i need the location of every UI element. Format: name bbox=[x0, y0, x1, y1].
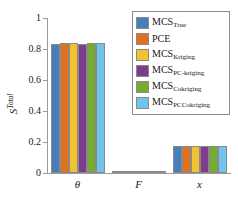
legend-label: PCE bbox=[152, 34, 170, 44]
legend-rows: MCSTruePCEMCSKrigingMCSPC-krigingMCSCokr… bbox=[136, 15, 226, 111]
bar bbox=[87, 43, 96, 173]
x-tick-label: x bbox=[197, 178, 202, 190]
x-tick-label: θ bbox=[75, 178, 80, 190]
legend-label: MCSCokriging bbox=[152, 81, 202, 93]
legend-label-base: PCE bbox=[152, 33, 170, 44]
legend-label-base: MCS bbox=[152, 64, 173, 75]
bar bbox=[130, 171, 139, 173]
legend-color-swatch bbox=[136, 65, 149, 77]
bar bbox=[139, 171, 148, 173]
bar bbox=[218, 146, 227, 173]
legend-label-subscript: PCCokriging bbox=[173, 101, 210, 109]
y-tick-label: 0 bbox=[36, 168, 41, 178]
legend-label: MCSPC-kriging bbox=[152, 65, 204, 77]
bar bbox=[182, 146, 191, 173]
legend-label-base: MCS bbox=[152, 80, 173, 91]
legend-color-swatch bbox=[136, 33, 149, 45]
x-axis-line bbox=[47, 173, 231, 174]
y-axis-label-superscript: Total bbox=[6, 93, 15, 108]
bar bbox=[51, 44, 60, 173]
bar bbox=[209, 146, 218, 173]
legend-color-swatch bbox=[136, 49, 149, 61]
legend-item: MCSPCCokriging bbox=[136, 95, 226, 111]
legend-label-subscript: Kriging bbox=[173, 53, 195, 61]
legend-label-base: MCS bbox=[152, 48, 173, 59]
bar bbox=[112, 171, 121, 173]
legend-color-swatch bbox=[136, 17, 149, 29]
y-tick-label: 0.8 bbox=[29, 44, 42, 54]
legend-color-swatch bbox=[136, 97, 149, 109]
bar bbox=[157, 171, 166, 173]
y-axis-label: STotal bbox=[6, 93, 20, 114]
legend-label-subscript: True bbox=[173, 21, 186, 29]
legend-label-subscript: PC-kriging bbox=[173, 69, 204, 77]
legend-item: MCSCokriging bbox=[136, 79, 226, 95]
bar bbox=[96, 43, 105, 173]
bar bbox=[121, 171, 130, 173]
y-tick-label: 1 bbox=[36, 13, 41, 23]
bar bbox=[69, 43, 78, 173]
legend-label-subscript: Cokriging bbox=[173, 85, 201, 93]
legend-label-base: MCS bbox=[152, 96, 173, 107]
y-axis-label-base: S bbox=[7, 108, 19, 114]
x-tick-label: F bbox=[135, 178, 142, 190]
y-tick-mark bbox=[43, 173, 47, 174]
bar bbox=[200, 146, 209, 173]
y-tick-label: 0.6 bbox=[29, 75, 42, 85]
legend-label: MCSPCCokriging bbox=[152, 97, 210, 109]
legend-item: PCE bbox=[136, 31, 226, 47]
legend-item: MCSTrue bbox=[136, 15, 226, 31]
bar bbox=[191, 146, 200, 173]
bar bbox=[60, 43, 69, 173]
y-tick-label: 0.2 bbox=[29, 137, 42, 147]
legend-item: MCSPC-kriging bbox=[136, 63, 226, 79]
bar bbox=[78, 44, 87, 173]
legend-label-base: MCS bbox=[152, 16, 173, 27]
sobol-total-index-bar-chart: STotal 00.20.40.60.81 θFx MCSTruePCEMCSK… bbox=[0, 0, 238, 207]
legend-label: MCSTrue bbox=[152, 17, 186, 29]
y-tick-label: 0.4 bbox=[29, 106, 42, 116]
bar bbox=[173, 146, 182, 173]
bar bbox=[148, 171, 157, 173]
legend-color-swatch bbox=[136, 81, 149, 93]
legend-item: MCSKriging bbox=[136, 47, 226, 63]
legend: MCSTruePCEMCSKrigingMCSPC-krigingMCSCokr… bbox=[132, 11, 230, 115]
bar-group bbox=[47, 18, 108, 173]
legend-label: MCSKriging bbox=[152, 49, 195, 61]
